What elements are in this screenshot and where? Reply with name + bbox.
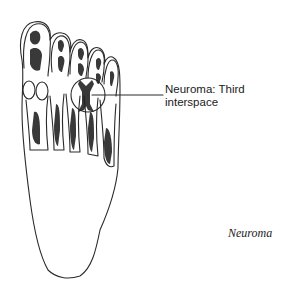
annotation-label-line2: interspace (165, 96, 218, 109)
neuroma-illustration: Neuroma: Third interspace Neuroma (0, 0, 291, 290)
annotation-label-line1: Neuroma: Third (165, 83, 245, 96)
figure-caption: Neuroma (228, 226, 272, 241)
foot-diagram (0, 0, 291, 290)
